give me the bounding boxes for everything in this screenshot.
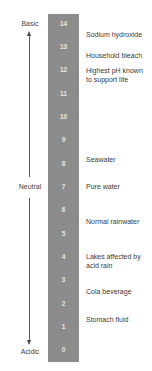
ph-12: 12: [48, 66, 79, 73]
label-sodium-hydroxide: Sodium hydroxide: [86, 31, 152, 40]
label-seawater: Seawater: [86, 156, 152, 165]
label-stomach-fluid: Stomach fluid: [86, 316, 152, 325]
label-normal-rainwater: Normal rainwater: [86, 218, 152, 227]
ph-11: 11: [48, 90, 79, 97]
ph-9: 9: [48, 136, 79, 143]
label-lakes-acid-rain: Lakes affected by acid rain: [86, 253, 150, 270]
basic-label: Basic: [10, 20, 50, 27]
label-highest-ph-life: Highest pH known to support life: [86, 67, 150, 84]
ph-1: 1: [48, 323, 79, 330]
ph-3: 3: [48, 276, 79, 283]
arrow-down-icon: [27, 340, 31, 345]
ph-8: 8: [48, 160, 79, 167]
label-cola-beverage: Cola beverage: [86, 288, 152, 297]
basic-axis-line: [29, 35, 30, 177]
ph-14: 14: [48, 20, 79, 27]
label-household-bleach: Household bleach: [86, 52, 152, 61]
ph-10: 10: [48, 113, 79, 120]
ph-6: 6: [48, 206, 79, 213]
ph-4: 4: [48, 253, 79, 260]
acidic-label: Acidic: [10, 348, 50, 355]
ph-7: 7: [48, 183, 79, 190]
ph-0: 0: [48, 346, 79, 353]
ph-13: 13: [48, 43, 79, 50]
acidic-axis-line: [29, 198, 30, 340]
label-pure-water: Pure water: [86, 183, 152, 192]
neutral-label: Neutral: [10, 183, 50, 190]
ph-5: 5: [48, 230, 79, 237]
ph-2: 2: [48, 300, 79, 307]
